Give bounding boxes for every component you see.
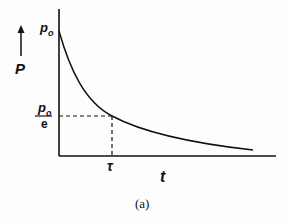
arrow-head-icon <box>18 25 25 33</box>
caption: (a) <box>135 196 149 212</box>
label-p0-numerator: po <box>38 100 51 118</box>
label-e-denominator: e <box>41 117 48 131</box>
label-t-axis: t <box>160 168 165 186</box>
figure: po P po e τ t (a) <box>0 0 290 224</box>
label-tau: τ <box>107 158 113 174</box>
decay-curve <box>59 31 253 150</box>
label-P-axis: P <box>15 60 25 77</box>
label-p0: po <box>40 20 53 38</box>
